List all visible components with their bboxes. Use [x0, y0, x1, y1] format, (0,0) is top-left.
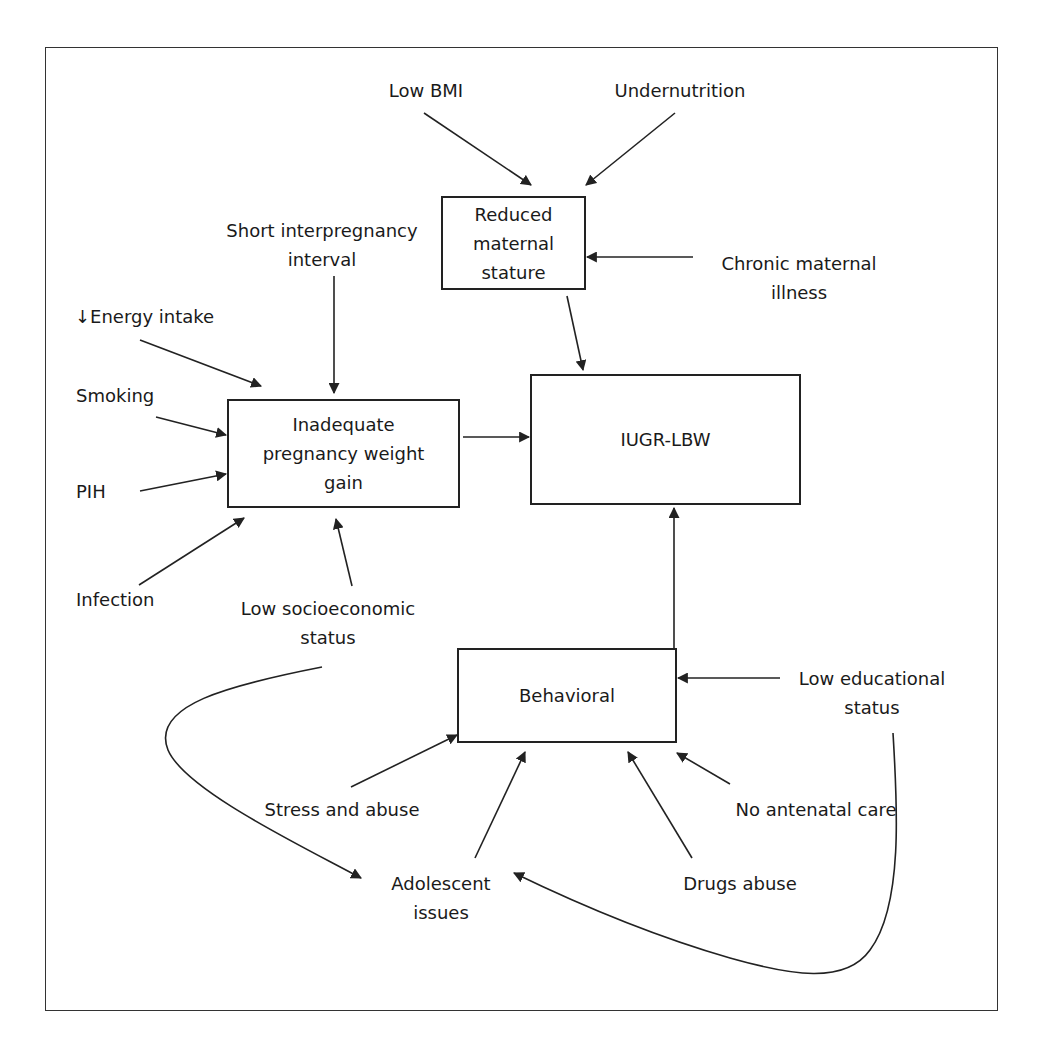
- arrow-stress-to-behavioral: [351, 735, 457, 787]
- label-low-education: Low educational status: [799, 664, 946, 722]
- label-adolescent-line1: Adolescent: [391, 869, 490, 898]
- diagram-canvas: Reduced maternal stature Inadequate preg…: [0, 0, 1039, 1055]
- label-stress-abuse: Stress and abuse: [265, 795, 420, 824]
- label-low-bmi: Low BMI: [389, 76, 463, 105]
- label-low-ses: Low socioeconomic status: [241, 594, 415, 652]
- box-reduced-maternal-stature: Reduced maternal stature: [441, 196, 586, 290]
- arrow-drugs-to-behavioral: [628, 752, 692, 858]
- label-education-line1: Low educational: [799, 664, 946, 693]
- arrow-undernutrition-to-reduced: [586, 113, 675, 185]
- arrow-lowbmi-to-reduced: [424, 113, 531, 185]
- box-reduced-line1: Reduced: [473, 200, 554, 229]
- arrow-reduced-to-iugr: [567, 296, 583, 370]
- label-drugs-abuse: Drugs abuse: [683, 869, 797, 898]
- label-short-interval: Short interpregnancy interval: [226, 216, 417, 274]
- box-iugr-label: IUGR-LBW: [620, 425, 710, 454]
- label-chronic-illness: Chronic maternal illness: [721, 249, 876, 307]
- curve-ses-to-adolescent: [165, 667, 361, 878]
- box-inadequate-line2: pregnancy weight: [263, 439, 425, 468]
- label-no-antenatal: No antenatal care: [735, 795, 896, 824]
- box-inadequate-line1: Inadequate: [263, 410, 425, 439]
- label-energy-intake: ↓Energy intake: [75, 302, 214, 331]
- label-interval-line1: Short interpregnancy: [226, 216, 417, 245]
- connector-layer: [0, 0, 1039, 1055]
- box-iugr-lbw: IUGR-LBW: [530, 374, 801, 505]
- label-ses-line1: Low socioeconomic: [241, 594, 415, 623]
- box-behavioral-label: Behavioral: [519, 681, 615, 710]
- arrow-adolescent-to-behavioral: [475, 752, 525, 858]
- arrow-pih-to-inadequate: [140, 474, 226, 491]
- box-inadequate-line3: gain: [263, 468, 425, 497]
- label-adolescent: Adolescent issues: [391, 869, 490, 927]
- arrow-antenatal-to-behavioral: [677, 753, 730, 784]
- label-ses-line2: status: [241, 623, 415, 652]
- arrow-infection-to-inadequate: [139, 518, 244, 585]
- arrow-smoking-to-inadequate: [156, 417, 226, 435]
- label-education-line2: status: [799, 693, 946, 722]
- arrow-energy-to-inadequate: [140, 340, 261, 386]
- label-chronic-line2: illness: [721, 278, 876, 307]
- box-reduced-line2: maternal: [473, 229, 554, 258]
- box-reduced-line3: stature: [473, 258, 554, 287]
- label-smoking: Smoking: [76, 381, 154, 410]
- box-inadequate-weight-gain: Inadequate pregnancy weight gain: [227, 399, 460, 508]
- label-adolescent-line2: issues: [391, 898, 490, 927]
- label-undernutrition: Undernutrition: [615, 76, 746, 105]
- label-infection: Infection: [76, 585, 155, 614]
- arrow-ses-to-inadequate: [336, 519, 352, 586]
- box-behavioral: Behavioral: [457, 648, 677, 743]
- label-interval-line2: interval: [226, 245, 417, 274]
- label-chronic-line1: Chronic maternal: [721, 249, 876, 278]
- label-pih: PIH: [76, 477, 106, 506]
